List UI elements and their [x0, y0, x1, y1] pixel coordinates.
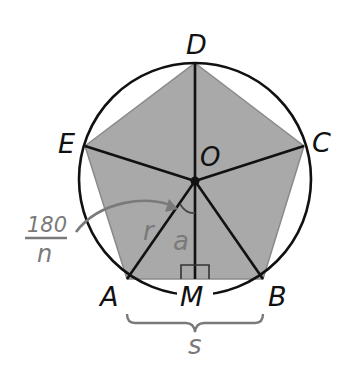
midpoint-label-m: M: [180, 281, 203, 312]
vertex-label-e: E: [58, 128, 75, 159]
side-label-s: s: [188, 330, 202, 360]
vertex-label-b: B: [268, 281, 287, 312]
vertex-label-a: A: [98, 281, 118, 312]
pentagon-diagram: D E C O A M B r a 180 n s: [0, 0, 358, 379]
apothem-label-a: a: [173, 226, 189, 256]
vertex-label-d: D: [186, 29, 207, 60]
center-point: [191, 177, 200, 186]
angle-denominator: n: [37, 240, 52, 268]
center-label-o: O: [200, 142, 220, 172]
vertex-label-c: C: [312, 127, 331, 158]
angle-numerator: 180: [27, 213, 67, 237]
